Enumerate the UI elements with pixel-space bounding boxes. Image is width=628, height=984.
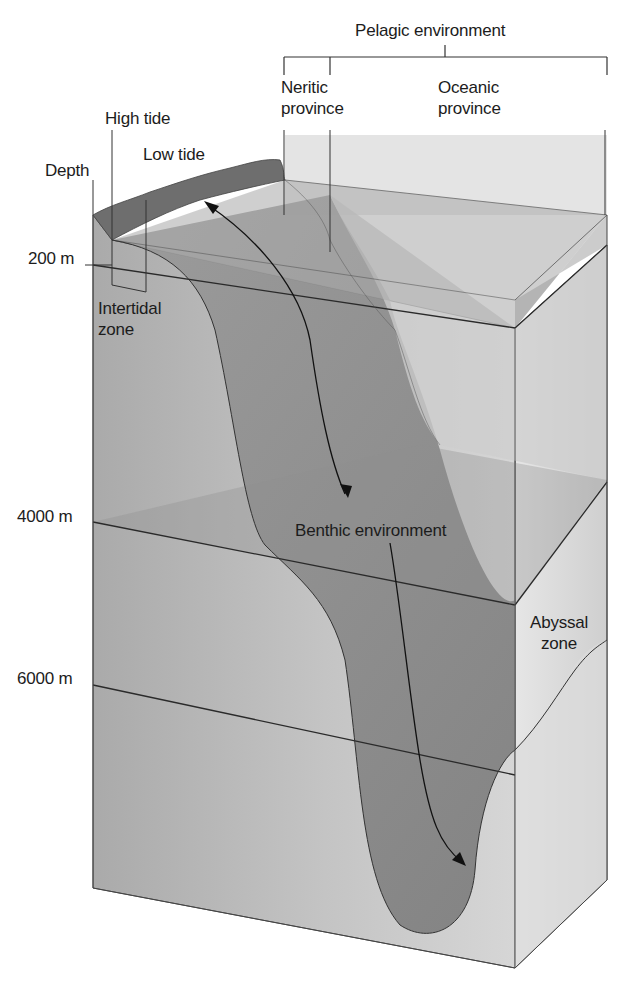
high-tide-label: High tide — [105, 108, 170, 129]
intertidal-line2: zone — [98, 319, 161, 340]
benthic-environment-label: Benthic environment — [295, 520, 446, 541]
abyssal-line2: zone — [530, 633, 588, 654]
low-tide-label: Low tide — [143, 144, 205, 165]
oceanic-line1: Oceanic — [438, 77, 501, 98]
intertidal-zone-label: Intertidal zone — [98, 298, 161, 340]
oceanic-line2: province — [438, 98, 501, 119]
ocean-zones-diagram — [0, 0, 628, 984]
neritic-line1: Neritic — [281, 77, 344, 98]
pelagic-environment-label: Pelagic environment — [355, 20, 505, 41]
depth-label-200: 200 m — [28, 248, 74, 269]
intertidal-line1: Intertidal — [98, 298, 161, 319]
depth-label-4000: 4000 m — [17, 506, 73, 527]
depth-label-6000: 6000 m — [17, 668, 73, 689]
abyssal-line1: Abyssal — [530, 612, 588, 633]
pelagic-bracket — [284, 45, 607, 75]
neritic-line2: province — [281, 98, 344, 119]
oceanic-province-label: Oceanic province — [438, 77, 501, 119]
neritic-province-label: Neritic province — [281, 77, 344, 119]
abyssal-zone-label: Abyssal zone — [530, 612, 588, 654]
depth-header-label: Depth — [45, 160, 89, 181]
